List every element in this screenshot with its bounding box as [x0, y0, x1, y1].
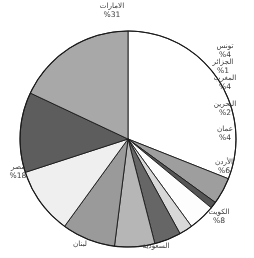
pie-label-oman-value: %4 — [205, 134, 245, 143]
pie-label-egypt-value: %18 — [1, 172, 35, 181]
pie-label-saudi: السعودية — [131, 242, 181, 251]
pie-label-bahrain: البحرين %2 — [205, 100, 245, 117]
pie-chart-figure: الامارات %31 تونس %4 الجزائر %1 المغرب %… — [0, 0, 254, 258]
pie-label-kuwait-value: %8 — [197, 217, 241, 226]
pie-label-jordan-value: %6 — [203, 167, 245, 176]
pie-label-emirates-value: %31 — [82, 11, 142, 20]
pie-label-emirates: الامارات %31 — [82, 2, 142, 19]
pie-label-jordan: الأردن %6 — [203, 158, 245, 175]
pie-label-morocco-value: %4 — [205, 83, 245, 92]
pie-label-kuwait: الكويت %8 — [197, 208, 241, 225]
pie-label-lebanon: لبنان — [60, 240, 100, 249]
pie-label-oman: عمان %4 — [205, 125, 245, 142]
pie-label-lebanon-name: لبنان — [60, 240, 100, 249]
pie-label-egypt: مصر %18 — [1, 163, 35, 180]
pie-label-morocco: المغرب %4 — [205, 74, 245, 91]
pie-label-bahrain-value: %2 — [205, 109, 245, 118]
pie-label-saudi-name: السعودية — [131, 242, 181, 251]
